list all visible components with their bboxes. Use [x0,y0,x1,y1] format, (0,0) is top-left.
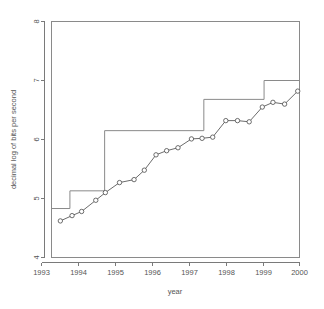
data-point [94,198,98,202]
plot-frame [52,22,300,258]
data-point [103,190,107,194]
x-axis: 1993 1994 1995 1996 1997 1998 1999 2000 [33,263,308,278]
data-point [200,136,204,140]
data-point [260,105,264,109]
step-reference-series [52,81,300,209]
x-tick-label-1997: 1997 [181,268,198,277]
x-tick-label-1994: 1994 [70,268,87,277]
data-point [70,213,74,217]
x-axis-label: year [168,287,183,296]
data-point [176,146,180,150]
data-point [211,135,215,139]
y-tick-label-6: 6 [32,137,41,141]
y-tick-label-7: 7 [32,78,41,82]
data-point [224,118,228,122]
x-tick-label-1995: 1995 [107,268,124,277]
data-point [58,219,62,223]
x-tick-label-1996: 1996 [144,268,161,277]
x-tick-label-1999: 1999 [255,268,272,277]
data-point [132,177,136,181]
data-point [79,209,83,213]
data-point [247,120,251,124]
data-point [271,100,275,104]
data-point [189,137,193,141]
data-point [154,153,158,157]
data-point [117,180,121,184]
x-tick-label-1993: 1993 [33,268,50,277]
x-tick-label-2000: 2000 [291,268,308,277]
y-tick-label-8: 8 [32,19,41,23]
data-point [235,118,239,122]
data-series-markers [58,89,300,223]
data-point [142,168,146,172]
y-axis-label: decimal log of bits per second [9,90,18,189]
x-tick-label-1998: 1998 [218,268,235,277]
y-tick-label-4: 4 [32,255,41,259]
chart-figure: 8 7 6 5 4 1993 1994 1995 1996 1997 1998 … [0,0,324,309]
y-axis: 8 7 6 5 4 [32,19,45,259]
data-point [296,89,300,93]
data-point [164,149,168,153]
data-point [282,102,286,106]
y-tick-label-5: 5 [32,196,41,200]
chart-svg: 8 7 6 5 4 1993 1994 1995 1996 1997 1998 … [0,0,324,309]
